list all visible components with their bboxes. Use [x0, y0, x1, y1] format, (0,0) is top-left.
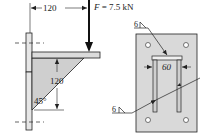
angle-label: 45°: [34, 96, 47, 106]
bolt-hole-bottom-right: [184, 118, 189, 123]
weld-fillet-symbol-top: [140, 22, 146, 28]
base-plate: [136, 34, 197, 132]
front-view: 60 6 6: [112, 20, 200, 132]
side-view: 120 F = 7.5 kN 120 45°: [15, 0, 134, 130]
force-arrow-head: [85, 42, 93, 52]
column-plate: [26, 33, 32, 72]
vertical-dimension-label: 120: [50, 76, 64, 86]
width-dimension-label: 60: [162, 62, 172, 72]
weld-size-bottom: 6: [112, 105, 116, 114]
weld-size-top: 6: [134, 20, 138, 29]
horizontal-dimension-label: 120: [43, 3, 57, 13]
force-label: F = 7.5 kN: [93, 2, 134, 12]
bracket-diagram: 120 F = 7.5 kN 120 45° 60: [0, 0, 203, 137]
flange-edge: [152, 56, 182, 60]
bolt-hole-top-right: [184, 43, 189, 48]
bolt-hole-top-left: [146, 43, 151, 48]
gusset-strip-left: [153, 60, 157, 112]
column-plate-lower: [26, 72, 32, 130]
weld-fillet-symbol-bottom: [119, 107, 125, 113]
bolt-hole-bottom-left: [146, 118, 151, 123]
bracket-flange: [32, 52, 100, 58]
